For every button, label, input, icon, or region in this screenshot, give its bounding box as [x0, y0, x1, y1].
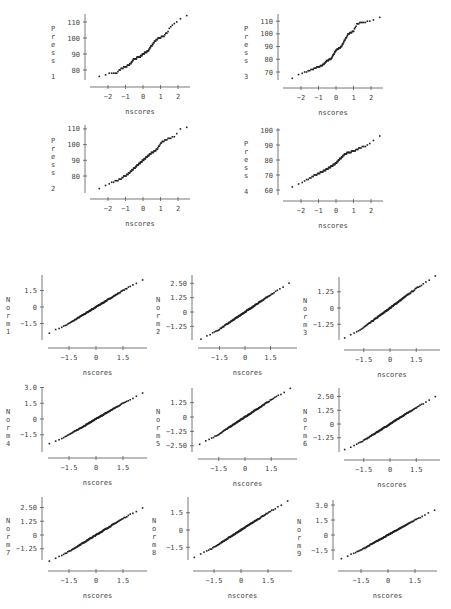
svg-text:m: m [156, 432, 160, 440]
x-tick-label: −1 [121, 93, 129, 101]
x-axis-label: nscores [83, 479, 113, 487]
svg-text:N: N [6, 296, 10, 304]
y-tick-label: 0 [330, 305, 334, 313]
x-tick-label: −1.5 [61, 354, 78, 362]
svg-text:r: r [51, 33, 55, 41]
svg-text:m: m [156, 320, 160, 328]
svg-text:N: N [6, 517, 10, 525]
svg-text:N: N [303, 297, 307, 305]
svg-text:r: r [244, 148, 248, 156]
x-tick-label: 2 [369, 94, 373, 102]
x-tick-label: 1.5 [265, 465, 278, 473]
y-tick-label: −1.25 [16, 545, 37, 553]
x-tick-label: −1 [121, 205, 129, 213]
svg-text:P: P [51, 137, 55, 145]
svg-text:m: m [303, 321, 307, 329]
svg-text:N: N [303, 408, 307, 416]
svg-text:o: o [297, 526, 301, 534]
y-axis-label: Press3 [244, 25, 248, 81]
x-tick-label: 0 [141, 93, 145, 101]
svg-text:m: m [6, 320, 10, 328]
plot-press4: 60708090100−2−1012nscoresPress4 [244, 127, 383, 231]
svg-text:r: r [156, 312, 160, 320]
x-axis-label: nscores [228, 592, 258, 600]
y-tick-label: 80 [72, 67, 80, 75]
y-tick-label: 1.5 [170, 509, 183, 517]
data-points [291, 17, 380, 80]
svg-text:N: N [297, 518, 301, 526]
x-tick-label: −1.5 [355, 356, 372, 364]
svg-text:m: m [6, 541, 10, 549]
svg-text:r: r [303, 424, 307, 432]
y-tick-label: 100 [260, 30, 273, 38]
y-tick-label: 90 [265, 142, 273, 150]
y-tick-label: 110 [67, 125, 80, 133]
y-tick-label: 80 [265, 56, 273, 64]
y-tick-label: 0 [330, 421, 334, 429]
svg-text:P: P [244, 25, 248, 33]
y-axis-label: Norm9 [297, 518, 301, 558]
svg-text:r: r [244, 33, 248, 41]
svg-text:e: e [51, 41, 55, 49]
y-tick-label: 1.25 [20, 518, 37, 526]
x-tick-label: 1 [158, 205, 162, 213]
x-tick-label: 0 [388, 466, 392, 474]
y-tick-label: 90 [72, 51, 80, 59]
svg-text:m: m [303, 432, 307, 440]
x-tick-label: −2 [104, 93, 112, 101]
y-axis-index: 3 [244, 73, 248, 81]
x-axis-label: nscores [377, 481, 407, 489]
svg-text:o: o [303, 416, 307, 424]
svg-text:s: s [51, 161, 55, 169]
y-axis-label: Norm7 [6, 517, 10, 557]
svg-text:r: r [297, 534, 301, 542]
y-tick-label: 0 [33, 304, 37, 312]
svg-text:e: e [244, 156, 248, 164]
data-points [98, 15, 187, 77]
svg-text:N: N [152, 517, 156, 525]
y-tick-label: 2.50 [20, 504, 37, 512]
y-tick-label: 1.5 [315, 517, 328, 525]
y-tick-label: 0 [183, 414, 187, 422]
y-tick-label: 1.25 [170, 294, 187, 302]
svg-text:o: o [156, 416, 160, 424]
x-tick-label: 1 [158, 93, 162, 101]
y-tick-label: 70 [265, 69, 273, 77]
svg-text:s: s [51, 57, 55, 65]
x-axis-label: nscores [318, 222, 348, 230]
y-tick-label: 0 [183, 309, 187, 317]
y-axis-label: Norm1 [6, 296, 10, 336]
svg-text:r: r [6, 312, 10, 320]
svg-text:s: s [244, 172, 248, 180]
y-tick-label: 110 [260, 18, 273, 26]
y-tick-label: 100 [260, 127, 273, 135]
x-axis-label: nscores [83, 592, 113, 600]
svg-text:s: s [244, 164, 248, 172]
y-tick-label: 1.25 [317, 407, 334, 415]
y-axis-label: Norm6 [303, 408, 307, 448]
x-tick-label: 2 [176, 205, 180, 213]
y-axis-index: 2 [156, 328, 160, 336]
plot-norm6: 2.501.250−1.25−1.501.5nscoresNorm6 [303, 388, 440, 489]
x-tick-label: 0 [334, 94, 338, 102]
y-axis-index: 4 [6, 440, 10, 448]
svg-text:o: o [152, 525, 156, 533]
plot-press2: 8090100110−2−1012nscoresPress2 [51, 125, 190, 228]
x-axis-label: nscores [125, 108, 155, 116]
y-axis-index: 1 [51, 73, 55, 81]
y-tick-label: 0 [33, 532, 37, 540]
svg-text:r: r [51, 145, 55, 153]
x-tick-label: −2 [297, 207, 305, 215]
plot-norm8: 1.50−1.5−1.501.5nscoresNorm8 [152, 497, 292, 600]
data-points [98, 127, 187, 190]
x-tick-label: −1.5 [211, 354, 228, 362]
x-tick-label: 0 [141, 205, 145, 213]
x-tick-label: 0 [243, 354, 247, 362]
y-tick-label: −1.5 [20, 431, 37, 439]
y-tick-label: 2.50 [170, 280, 187, 288]
y-tick-label: 100 [67, 141, 80, 149]
y-axis-label: Press2 [51, 137, 55, 193]
x-tick-label: −1.5 [355, 466, 372, 474]
y-tick-label: 1.5 [24, 287, 37, 295]
x-tick-label: 1.5 [117, 464, 130, 472]
